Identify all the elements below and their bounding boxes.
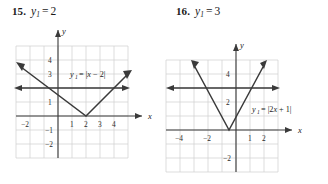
graph-16-canvas: −4 −2 1 2 4 2 −2 x y y 1 = |2x + 1|	[164, 24, 328, 180]
given-rhs-16: 3	[214, 5, 220, 17]
y-tick-label-16-2: −2	[223, 154, 231, 163]
problem-15: 15. y1=2	[0, 0, 164, 184]
given-operator-15: =	[42, 5, 49, 17]
svg-text:= |x − 2|: = |x − 2|	[79, 70, 106, 79]
given-operator-16: =	[206, 5, 213, 17]
line-y-equals-3	[166, 85, 280, 91]
problem-16-given-equation: y1=3	[195, 5, 220, 19]
grid-lines-15	[16, 46, 128, 158]
graph-15-canvas: −2 1 2 3 4 4 3 1 −1 −2 x y y 1 = |x − 2|	[0, 24, 164, 180]
x-tick-label-16-0: −4	[175, 134, 183, 143]
x-tick-label-15-4: 4	[112, 120, 116, 129]
graph-16: −4 −2 1 2 4 2 −2 x y y 1 = |2x + 1|	[164, 24, 328, 180]
y-tick-label-15-3: −1	[45, 126, 53, 135]
y-tick-label-15-2: 1	[48, 98, 52, 107]
curve-abs-x-minus-2	[16, 62, 132, 116]
x-axis-name-15: x	[147, 111, 152, 121]
y-tick-label-15-1: 3	[48, 70, 52, 79]
exercise-page: 15. y1=2	[0, 0, 328, 184]
y-axis-name-16: y	[239, 40, 244, 50]
x-axis-name-16: x	[297, 125, 302, 135]
y-tick-label-16-0: 4	[226, 70, 230, 79]
svg-text:1: 1	[257, 109, 260, 115]
svg-text:y: y	[69, 70, 74, 79]
problem-15-heading: 15. y1=2	[12, 5, 56, 23]
x-tick-label-15-0: −2	[21, 120, 29, 129]
x-tick-label-15-1: 1	[70, 120, 74, 129]
x-tick-label-16-2: 1	[248, 134, 252, 143]
given-subscript-16: 1	[200, 10, 204, 19]
y-tick-label-15-0: 4	[48, 56, 52, 65]
given-subscript-15: 1	[36, 10, 40, 19]
x-tick-label-15-3: 3	[98, 120, 102, 129]
problem-16: 16. y1=3	[164, 0, 328, 184]
problem-16-heading: 16. y1=3	[176, 5, 220, 23]
x-tick-label-15-2: 2	[84, 120, 88, 129]
problem-16-number: 16.	[176, 5, 190, 17]
x-tick-label-16-3: 2	[262, 134, 266, 143]
graph-15: −2 1 2 3 4 4 3 1 −1 −2 x y y 1 = |x − 2|	[0, 24, 164, 180]
x-axis-15	[16, 113, 142, 119]
y-tick-label-16-1: 2	[226, 98, 230, 107]
equation-annotation-16: y 1 = |2x + 1|	[251, 105, 292, 115]
y-axis-name-15: y	[61, 26, 66, 36]
x-tick-label-16-1: −2	[203, 134, 211, 143]
equation-annotation-15: y 1 = |x − 2|	[69, 70, 106, 80]
svg-text:y: y	[251, 105, 256, 114]
problem-15-number: 15.	[12, 5, 26, 17]
problem-15-given-equation: y1=2	[31, 5, 56, 19]
svg-text:1: 1	[75, 74, 78, 80]
y-tick-label-15-4: −2	[45, 140, 53, 149]
given-rhs-15: 2	[50, 5, 56, 17]
svg-text:= |2x + 1|: = |2x + 1|	[261, 105, 292, 114]
y-axis-16	[233, 44, 239, 172]
